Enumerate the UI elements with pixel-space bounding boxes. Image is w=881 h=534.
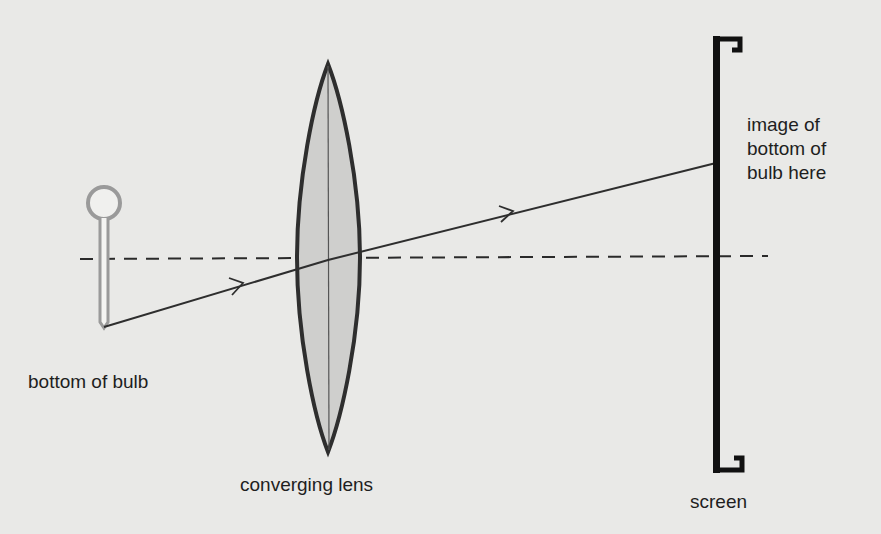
image-label-line-1: image of xyxy=(747,113,826,137)
screen xyxy=(713,36,742,473)
image-label-line-2: bottom of xyxy=(747,137,826,161)
bulb-label: bottom of bulb xyxy=(28,370,148,394)
lens-label: converging lens xyxy=(240,473,373,497)
light-ray xyxy=(104,163,716,327)
optics-diagram xyxy=(0,0,881,534)
image-label-line-3: bulb here xyxy=(747,161,826,185)
image-label: image of bottom of bulb here xyxy=(747,113,826,185)
screen-label: screen xyxy=(690,490,747,514)
principal-axis xyxy=(80,256,768,259)
bulb-icon xyxy=(88,187,120,328)
ray-arrow-2 xyxy=(499,206,513,222)
